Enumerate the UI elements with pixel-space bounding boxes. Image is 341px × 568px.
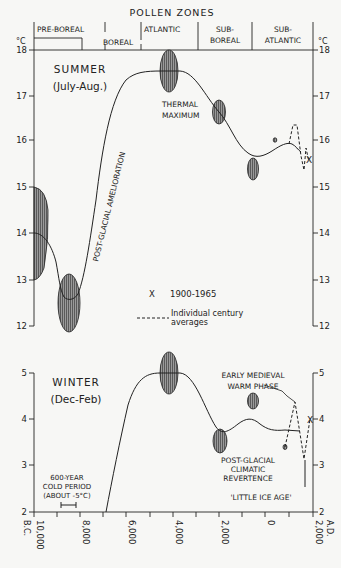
svg-text:14: 14 — [319, 228, 330, 238]
winter-subtitle: (Dec-Feb) — [51, 393, 102, 405]
svg-text:4: 4 — [22, 414, 27, 424]
svg-text:17: 17 — [16, 91, 27, 101]
svg-text:2: 2 — [319, 507, 324, 517]
svg-text:2,000: 2,000 — [220, 520, 230, 544]
svg-text:5: 5 — [22, 368, 27, 378]
svg-text:12: 12 — [319, 321, 330, 331]
label-thermal-2: MAXIMUM — [162, 111, 199, 120]
summer-uncertainty-ovals — [34, 50, 277, 332]
label-thermal-1: THERMAL — [161, 100, 199, 109]
oval-summer-small — [273, 138, 277, 142]
svg-text:16: 16 — [319, 135, 330, 145]
svg-text:14: 14 — [16, 228, 27, 238]
pollen-zones-title: POLLEN ZONES — [129, 7, 214, 18]
cold-period-bracket — [61, 502, 76, 508]
svg-text:8,000: 8,000 — [81, 520, 91, 544]
zone-atlantic: ATLANTIC — [144, 25, 180, 34]
zone-sub-boreal-line2: BOREAL — [210, 36, 241, 45]
zone-sub-atlantic-line1: SUB- — [274, 25, 292, 34]
x-axis-labels: 10,000 8,000 6,000 4,000 2,000 0 2,000 — [35, 520, 324, 550]
winter-curve — [106, 373, 300, 512]
label-post-glacial-amelioration: POST-GLACIAL AMELIORATION — [91, 151, 127, 263]
oval-winter-2000bc — [213, 429, 227, 453]
svg-text:12: 12 — [16, 321, 27, 331]
oval-winter-900bc — [248, 393, 259, 409]
legend-x-label: 1900-1965 — [170, 289, 216, 299]
svg-text:10,000: 10,000 — [35, 520, 45, 550]
zone-sub-boreal-line1: SUB- — [216, 25, 234, 34]
svg-text:15: 15 — [16, 182, 27, 192]
svg-text:18: 18 — [16, 45, 27, 55]
svg-text:5: 5 — [319, 368, 324, 378]
oval-summer-700bc — [248, 158, 259, 180]
label-little-ice-age: 'LITTLE ICE AGE' — [231, 493, 292, 502]
svg-text:15: 15 — [319, 182, 330, 192]
label-warm-2: WARM PHASE — [228, 382, 279, 391]
legend-dash-label-1: Individual century — [171, 309, 243, 318]
label-warm-1: EARLY MEDIEVAL — [221, 371, 285, 380]
winter-y-labels-right: 5 4 3 2 — [319, 368, 324, 517]
zone-sub-atlantic-line2: ATLANTIC — [265, 36, 301, 45]
svg-text:2: 2 — [22, 507, 27, 517]
label-cold-3: (ABOUT -5°C) — [43, 492, 91, 500]
oval-summer-8600bc — [58, 274, 80, 332]
svg-text:18: 18 — [319, 45, 330, 55]
winter-title: WINTER — [52, 376, 100, 388]
svg-text:2,000: 2,000 — [314, 520, 324, 544]
winter-y-labels-left: 5 4 3 2 — [22, 368, 27, 517]
svg-text:0: 0 — [266, 520, 276, 525]
zone-pre-boreal: PRE-BOREAL — [37, 25, 85, 34]
x-bc-label: B.C. — [22, 520, 31, 536]
winter-1900-1965-marker: X — [307, 415, 313, 425]
svg-text:16: 16 — [16, 135, 27, 145]
svg-text:3: 3 — [319, 460, 324, 470]
label-revert-2: CLIMATIC — [231, 465, 266, 474]
label-revert-1: POST-GLACIAL — [221, 456, 276, 465]
svg-text:3: 3 — [22, 460, 27, 470]
winter-uncertainty-ovals — [160, 352, 287, 453]
label-cold-1: 600-YEAR — [50, 474, 84, 482]
label-cold-2: COLD PERIOD — [43, 483, 91, 491]
label-revert-3: REVERTENCE — [223, 474, 273, 483]
svg-text:17: 17 — [319, 91, 330, 101]
svg-text:6,000: 6,000 — [127, 520, 137, 544]
svg-text:13: 13 — [16, 275, 27, 285]
zone-boreal: BOREAL — [103, 38, 134, 47]
climate-chart: POLLEN ZONES PRE-BOREAL BOREAL ATLANTIC … — [0, 0, 341, 568]
summer-subtitle: (July-Aug.) — [53, 80, 107, 92]
legend-dash-label-2: averages — [171, 318, 208, 327]
summer-y-labels-right: 18 17 16 15 14 13 12 — [319, 45, 330, 331]
x-ad-label: A.D. — [325, 520, 334, 537]
summer-title: SUMMER — [54, 63, 106, 75]
summer-1900-1965-marker: X — [306, 155, 312, 165]
summer-y-labels-left: 18 17 16 15 14 13 12 — [16, 45, 27, 331]
legend-x-marker: X — [149, 289, 155, 299]
svg-text:13: 13 — [319, 275, 330, 285]
svg-text:4,000: 4,000 — [174, 520, 184, 544]
svg-text:4: 4 — [319, 414, 324, 424]
